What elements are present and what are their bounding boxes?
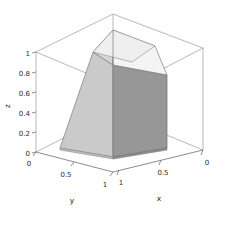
z-axis-title: z — [3, 104, 12, 108]
z-tick-label-4: 0.8 — [19, 70, 30, 78]
x-axis-title: x — [157, 194, 162, 203]
y-tick-label-0: 0 — [27, 160, 31, 168]
z-tick-label-3: 0.6 — [19, 90, 31, 98]
surface-left-face — [60, 52, 113, 157]
z-tick-label-0: 0 — [26, 150, 30, 158]
y-axis-tick-labels: 0 0.5 1 — [27, 160, 107, 189]
y-tick-label-1: 0.5 — [60, 171, 71, 179]
z-axis-ticks — [32, 52, 36, 153]
x-tick-label-0: 1 — [119, 179, 123, 187]
z-tick-mark-08 — [32, 72, 36, 73]
z-tick-mark-1 — [32, 52, 36, 53]
z-tick-label-2: 0.4 — [19, 110, 31, 118]
z-tick-mark-02 — [32, 132, 36, 133]
surface-right-face — [113, 65, 167, 157]
z-tick-label-5: 1 — [26, 50, 30, 58]
y-tick-mark-1 — [110, 172, 113, 176]
y-axis-title: y — [70, 196, 75, 205]
x-axis-tick-labels: 1 0.5 0 — [119, 159, 209, 187]
x-tick-label-2: 0 — [205, 159, 209, 167]
y-tick-mark-05 — [71, 162, 74, 166]
surface-plot-svg: 1 0.8 0.6 0.4 0.2 0 z 0 0.5 1 y 1 0.5 0 … — [0, 0, 227, 225]
plot-root: 1 0.8 0.6 0.4 0.2 0 z 0 0.5 1 y 1 0.5 0 … — [0, 0, 227, 225]
z-tick-mark-06 — [32, 92, 36, 93]
z-axis-tick-labels: 1 0.8 0.6 0.4 0.2 0 — [19, 50, 31, 158]
surface-mesh — [60, 30, 167, 159]
z-tick-mark-04 — [32, 112, 36, 113]
x-tick-label-1: 0.5 — [157, 169, 168, 177]
y-tick-label-2: 1 — [103, 181, 107, 189]
z-tick-label-1: 0.2 — [19, 130, 30, 138]
